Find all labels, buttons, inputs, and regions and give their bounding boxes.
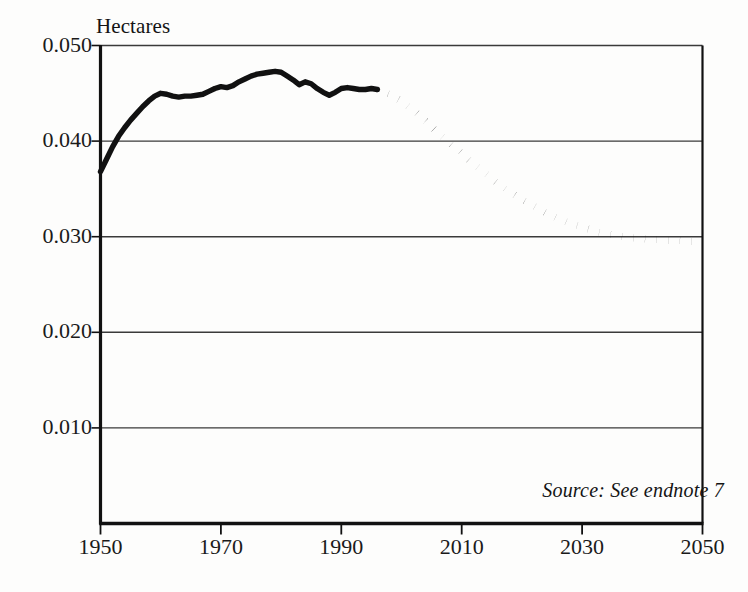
chart-plot-area: [0, 0, 748, 592]
data-series: [101, 71, 703, 241]
x-tick-label-text: 2010: [440, 534, 484, 560]
series-line-1: [377, 89, 702, 241]
y-tick-label-text: 0.010: [43, 414, 93, 440]
gridlines: [101, 46, 703, 428]
y-axis-title: Hectares: [96, 14, 170, 39]
chart-figure: Hectares 0.0100.0200.0300.0400.050 19501…: [0, 0, 748, 592]
chart-axes: [99, 45, 703, 525]
y-tick-label-text: 0.040: [43, 127, 93, 153]
tick-marks: [92, 46, 703, 535]
x-tick-label-text: 2030: [560, 534, 604, 560]
y-tick-label-text: 0.020: [43, 318, 93, 344]
source-note: Source: See endnote 7: [542, 479, 724, 502]
x-tick-label-text: 1970: [199, 534, 243, 560]
y-tick-label-text: 0.050: [43, 32, 93, 58]
x-tick-label-text: 1950: [79, 534, 123, 560]
y-tick-label-text: 0.030: [43, 223, 93, 249]
x-tick-label-text: 2050: [681, 534, 725, 560]
x-tick-label-text: 1990: [319, 534, 363, 560]
series-line-0: [101, 71, 378, 171]
